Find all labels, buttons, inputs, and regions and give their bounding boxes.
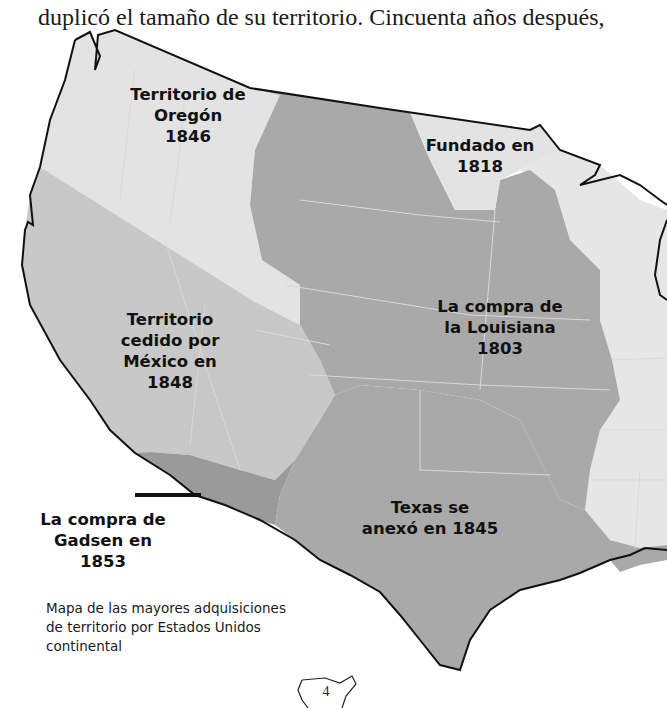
label-line: Fundado en	[420, 135, 540, 156]
caption-line: continental	[46, 637, 346, 656]
label-oregon-territory: Territorio de Oregón 1846	[118, 84, 258, 147]
label-line: 1803	[425, 338, 575, 359]
label-line: La compra de	[425, 296, 575, 317]
label-line: México en	[110, 351, 230, 372]
label-gadsden-purchase: La compra de Gadsen en 1853	[28, 509, 178, 572]
label-line: cedido por	[110, 330, 230, 351]
caption-line: Mapa de las mayores adquisiciones	[46, 599, 346, 618]
label-line: Texas se	[355, 497, 505, 518]
label-line: la Louisiana	[425, 317, 575, 338]
label-line: Territorio de	[118, 84, 258, 105]
label-line: anexó en 1845	[355, 518, 505, 539]
label-line: 1846	[118, 126, 258, 147]
label-texas-annexation: Texas se anexó en 1845	[355, 497, 505, 539]
label-line: La compra de	[28, 509, 178, 530]
map-caption: Mapa de las mayores adquisiciones de ter…	[46, 599, 346, 656]
label-line: Oregón	[118, 105, 258, 126]
label-line: Territorio	[110, 309, 230, 330]
label-line: 1818	[420, 156, 540, 177]
label-founded-1818: Fundado en 1818	[420, 135, 540, 177]
label-line: 1853	[28, 551, 178, 572]
gadsden-marker-line	[135, 493, 201, 497]
label-mexican-cession: Territorio cedido por México en 1848	[110, 309, 230, 393]
label-line: 1848	[110, 372, 230, 393]
label-line: Gadsen en	[28, 530, 178, 551]
label-louisiana-purchase: La compra de la Louisiana 1803	[425, 296, 575, 359]
caption-line: de territorio por Estados Unidos	[46, 618, 346, 637]
page-number: 4	[318, 684, 334, 700]
